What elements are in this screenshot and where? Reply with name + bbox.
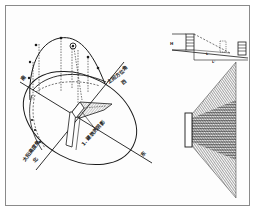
sun-path-diagram: 南 西 北 东 太阳方位角 太阳高度角 1. 建筑的阴影 [7, 37, 152, 184]
shadow-fan-plan [185, 62, 236, 198]
building-shadow [66, 102, 112, 150]
label-south: 南 [19, 74, 28, 82]
label-north: 北 [31, 156, 40, 164]
label-shadow: 1. 建筑的阴影 [80, 119, 107, 148]
label-east: 东 [139, 150, 148, 158]
label-west: 西 [120, 78, 128, 87]
label-height: H [170, 41, 173, 46]
building-shadow-section: H L L' [170, 34, 248, 64]
sun-path-arc [30, 38, 105, 100]
projected-arc [33, 74, 106, 90]
building-plan [185, 113, 192, 147]
sun-icon [70, 43, 76, 49]
figure-canvas: 南 西 北 东 太阳方位角 太阳高度角 1. 建筑的阴影 H [0, 0, 256, 214]
axis-nw-se [20, 82, 152, 163]
label-l2: L' [212, 60, 215, 64]
